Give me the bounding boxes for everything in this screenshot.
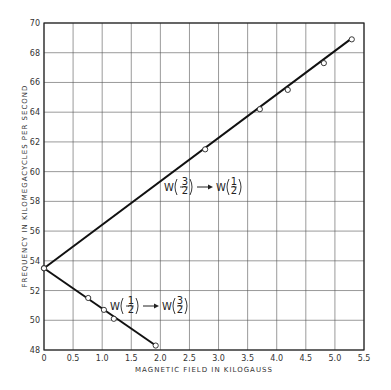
data-point	[153, 343, 158, 348]
x-tick-label: 5.0	[329, 354, 342, 363]
y-tick-label: 64	[30, 108, 40, 117]
annotation-lower-transition: W 1 2 W 3 2	[110, 295, 187, 315]
data-point	[203, 147, 208, 152]
data-point	[86, 295, 91, 300]
y-tick-label: 62	[30, 138, 40, 147]
svg-text:2: 2	[177, 304, 183, 315]
x-tick-label: 4.5	[299, 354, 312, 363]
y-tick-label: 66	[30, 78, 40, 87]
x-axis-ticks: 00.51.01.52.02.53.03.54.04.55.05.5	[41, 354, 370, 363]
x-tick-label: 5.5	[358, 354, 371, 363]
annotation-upper-transition: W 3 2 W 1 2	[164, 176, 241, 196]
y-axis-label: FREQUENCY IN KILOMEGACYCLES PER SECOND	[21, 85, 29, 288]
y-tick-label: 60	[30, 168, 40, 177]
svg-text:W: W	[216, 182, 226, 193]
y-axis-ticks: 485052545658606264666870	[30, 19, 40, 355]
x-tick-label: 2.5	[183, 354, 196, 363]
data-point	[41, 266, 46, 271]
y-tick-label: 70	[30, 19, 40, 28]
x-tick-label: 3.5	[241, 354, 254, 363]
y-tick-label: 54	[30, 257, 40, 266]
data-point	[101, 307, 106, 312]
svg-text:2: 2	[128, 304, 134, 315]
x-tick-label: 1.0	[96, 354, 109, 363]
y-tick-label: 48	[30, 346, 40, 355]
svg-text:2: 2	[231, 185, 237, 196]
y-tick-label: 68	[30, 49, 40, 58]
x-tick-label: 2.0	[154, 354, 167, 363]
x-tick-label: 0	[41, 354, 46, 363]
svg-text:W: W	[110, 301, 120, 312]
chart: 485052545658606264666870 00.51.01.52.02.…	[0, 0, 391, 390]
svg-text:2: 2	[182, 185, 188, 196]
data-point	[111, 316, 116, 321]
y-tick-label: 52	[30, 287, 40, 296]
fit-line-1	[44, 268, 156, 345]
data-point	[257, 107, 262, 112]
data-points	[41, 37, 354, 348]
svg-text:W: W	[162, 301, 172, 312]
y-tick-label: 58	[30, 197, 40, 206]
data-point	[349, 37, 354, 42]
x-tick-label: 1.5	[125, 354, 138, 363]
data-point	[321, 61, 326, 66]
y-tick-label: 56	[30, 227, 40, 236]
svg-text:W: W	[164, 182, 174, 193]
x-tick-label: 0.5	[67, 354, 80, 363]
x-tick-label: 3.0	[212, 354, 225, 363]
x-tick-label: 4.0	[270, 354, 283, 363]
x-axis-label: MAGNETIC FIELD IN KILOGAUSS	[135, 366, 273, 374]
data-point	[285, 87, 290, 92]
y-tick-label: 50	[30, 316, 40, 325]
